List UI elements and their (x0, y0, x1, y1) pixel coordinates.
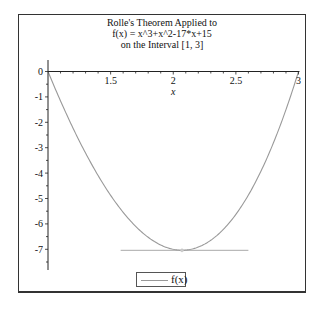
y-tick-label: -1 (35, 91, 43, 102)
x-tick-label: 3 (296, 75, 301, 86)
y-tick-label: -6 (35, 218, 43, 229)
y-tick-label: -5 (35, 193, 43, 204)
y-tick-label: -2 (35, 117, 43, 128)
y-tick-label: 0 (38, 66, 43, 77)
legend-label: f(x) (171, 273, 188, 286)
legend-swatch (141, 280, 168, 281)
x-axis-label: x (170, 86, 176, 97)
critical-point-marker (181, 249, 184, 252)
y-tick-label: -3 (35, 142, 43, 153)
y-tick-label: -4 (35, 168, 43, 179)
legend: f(x) (136, 272, 186, 287)
y-tick-label: -7 (35, 244, 43, 255)
x-tick-label: 2 (171, 75, 176, 86)
x-tick-label: 1.5 (104, 75, 117, 86)
x-tick-label: 2.5 (230, 75, 243, 86)
function-curve (48, 72, 299, 251)
plot-area: 1.522.53x0-1-2-3-4-5-6-7 (0, 0, 324, 311)
